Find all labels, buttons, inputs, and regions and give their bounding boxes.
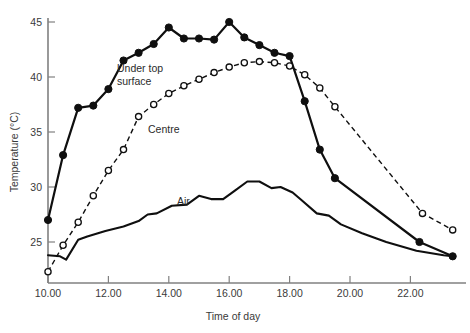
data-point xyxy=(105,167,111,173)
y-tick-25: 25 xyxy=(30,236,55,248)
data-point xyxy=(60,242,66,248)
data-point xyxy=(226,64,232,70)
data-point xyxy=(120,147,126,153)
x-tick-label: 20.00 xyxy=(337,287,363,299)
y-tick-label: 25 xyxy=(30,236,42,248)
data-point xyxy=(317,85,323,91)
data-point xyxy=(105,86,112,93)
data-point xyxy=(316,146,323,153)
data-point xyxy=(135,49,142,56)
data-point xyxy=(211,36,218,43)
data-point xyxy=(181,83,187,89)
x-tick-10: 10.00 xyxy=(35,276,61,299)
data-point xyxy=(271,49,278,56)
y-axis-title: Temperature (°C) xyxy=(8,112,20,193)
data-point xyxy=(165,24,172,31)
x-tick-22: 22.00 xyxy=(397,276,423,299)
data-point xyxy=(180,35,187,42)
x-tick-16: 16.00 xyxy=(216,276,242,299)
data-point xyxy=(151,101,157,107)
series-label-air: Air xyxy=(177,195,190,207)
data-point xyxy=(416,238,423,245)
x-tick-group: 10.00 12.00 14.00 16.00 18.00 20.00 xyxy=(35,276,424,299)
data-point xyxy=(90,193,96,199)
x-tick-label: 18.00 xyxy=(276,287,302,299)
series-label-centre: Centre xyxy=(148,123,180,135)
data-point xyxy=(449,253,456,260)
x-tick-14: 14.00 xyxy=(156,276,182,299)
data-point xyxy=(90,102,97,109)
x-tick-18: 18.00 xyxy=(276,276,302,299)
x-tick-label: 12.00 xyxy=(95,287,121,299)
y-tick-label: 40 xyxy=(30,71,42,83)
data-point xyxy=(419,210,425,216)
x-tick-12: 12.00 xyxy=(95,276,121,299)
data-point xyxy=(301,98,308,105)
x-tick-label: 22.00 xyxy=(397,287,423,299)
x-tick-label: 14.00 xyxy=(156,287,182,299)
data-point xyxy=(286,53,293,60)
y-tick-45: 45 xyxy=(30,16,55,28)
data-point xyxy=(60,152,67,159)
data-point xyxy=(44,216,51,223)
under-top-surface-series-line xyxy=(48,22,453,256)
data-point xyxy=(241,60,247,66)
y-tick-label: 35 xyxy=(30,126,42,138)
data-point xyxy=(332,104,338,110)
y-tick-label: 30 xyxy=(30,181,42,193)
y-tick-40: 40 xyxy=(30,71,55,83)
x-tick-label: 16.00 xyxy=(216,287,242,299)
data-point xyxy=(226,18,233,25)
data-point xyxy=(150,40,157,47)
data-point xyxy=(302,72,308,78)
data-point xyxy=(271,60,277,66)
data-point xyxy=(450,227,456,233)
data-point xyxy=(211,70,217,76)
series-label-under-top-surface-line2: surface xyxy=(117,75,152,87)
series-label-under-top-surface-line1: Under top xyxy=(117,62,163,74)
data-point xyxy=(241,34,248,41)
data-point xyxy=(195,35,202,42)
data-point xyxy=(287,63,293,69)
x-tick-label: 10.00 xyxy=(35,287,61,299)
data-point xyxy=(75,104,82,111)
data-point xyxy=(196,76,202,82)
data-point xyxy=(331,175,338,182)
y-tick-group: 25 30 35 40 45 xyxy=(30,16,55,248)
y-tick-35: 35 xyxy=(30,126,55,138)
data-point xyxy=(45,269,51,275)
data-point xyxy=(136,114,142,120)
x-axis-title: Time of day xyxy=(206,310,261,322)
temperature-line-chart: 25 30 35 40 45 10.00 xyxy=(0,0,470,333)
y-tick-label: 45 xyxy=(30,16,42,28)
chart-figure: 25 30 35 40 45 10.00 xyxy=(0,0,470,333)
data-point xyxy=(256,42,263,49)
data-point xyxy=(75,219,81,225)
y-tick-30: 30 xyxy=(30,181,55,193)
data-point xyxy=(256,59,262,65)
x-tick-20: 20.00 xyxy=(337,276,363,299)
data-point xyxy=(166,90,172,96)
